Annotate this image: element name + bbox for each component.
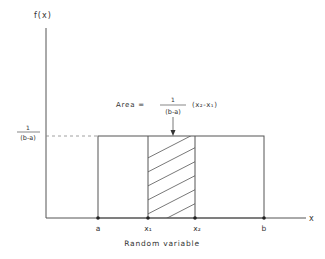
area-label-suffix: (x₂-x₁) <box>192 101 217 109</box>
point-b-marker <box>262 216 266 220</box>
point-b-label: b <box>262 224 267 233</box>
uniform-distribution-diagram: f(x) x 1 (b-a) Area = 1 (b-a) (x₂-x₁) a … <box>0 0 325 259</box>
area-arrow-head <box>171 130 176 136</box>
pdf-rectangle <box>98 136 264 218</box>
height-label-numerator: 1 <box>26 124 30 131</box>
point-x2-marker <box>193 216 197 220</box>
point-x2-label: x₂ <box>193 224 200 233</box>
height-label-denominator: (b-a) <box>20 134 36 142</box>
area-label-numerator: 1 <box>171 96 175 103</box>
area-label-denominator: (b-a) <box>165 108 181 116</box>
area-label-prefix: Area = <box>116 101 145 109</box>
point-x1-marker <box>146 216 150 220</box>
point-a-marker <box>96 216 100 220</box>
y-axis-label: f(x) <box>34 11 52 20</box>
point-x1-label: x₁ <box>144 224 151 233</box>
x-axis-title: Random variable <box>124 239 200 248</box>
x-axis-label: x <box>309 214 314 223</box>
point-a-label: a <box>96 224 101 233</box>
